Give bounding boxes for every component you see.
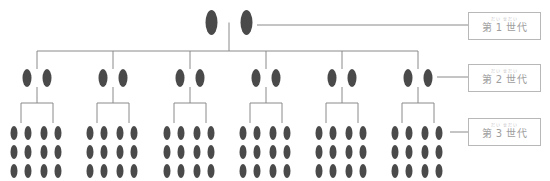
gen3-person-icon xyxy=(178,145,185,159)
gen3-person-icon xyxy=(330,126,337,140)
gen3-person-icon xyxy=(436,126,443,140)
gen3-person-icon xyxy=(87,164,94,178)
gen3-person-icon xyxy=(422,164,429,178)
gen3-person-icon xyxy=(25,145,32,159)
gen3-person-icon xyxy=(178,164,185,178)
gen3-person-icon xyxy=(131,145,138,159)
gen3-person-icon xyxy=(208,126,215,140)
gen3-person-icon xyxy=(208,145,215,159)
gen3-person-icon xyxy=(392,126,399,140)
gen3-person-icon xyxy=(101,164,108,178)
connector-lines xyxy=(21,23,468,133)
gen3-person-icon xyxy=(346,164,353,178)
gen1-person-icon xyxy=(206,10,218,35)
gen3-person-icon xyxy=(392,164,399,178)
gen3-person-icon xyxy=(270,164,277,178)
gen3-person-icon xyxy=(270,145,277,159)
gen3-person-icon xyxy=(316,126,323,140)
gen3-person-icon xyxy=(55,164,62,178)
gen3-person-icon xyxy=(164,126,171,140)
gen2-person-icon xyxy=(196,69,205,87)
gen3-person-icon xyxy=(346,145,353,159)
generation-3-text: 第 3 世代 xyxy=(482,128,528,140)
gen3-person-icon xyxy=(117,164,124,178)
gen3-person-icon xyxy=(117,145,124,159)
gen2-person-icon xyxy=(252,69,261,87)
generation-1-label: だい せだい 第 1 世代 xyxy=(468,12,541,40)
gen3-person-icon xyxy=(25,126,32,140)
gen3-person-icon xyxy=(178,126,185,140)
gen3-person-icon xyxy=(406,126,413,140)
generation-1-text: 第 1 世代 xyxy=(482,22,528,34)
gen3-person-icon xyxy=(360,164,367,178)
gen3-person-icon xyxy=(87,126,94,140)
gen2-person-icon xyxy=(23,69,32,87)
gen3-person-icon xyxy=(41,126,48,140)
gen3-person-icon xyxy=(101,126,108,140)
gen3-person-icon xyxy=(254,145,261,159)
gen3-person-icon xyxy=(11,126,18,140)
gen3-person-icon xyxy=(240,164,247,178)
gen3-person-icon xyxy=(392,145,399,159)
gen3-person-icon xyxy=(41,164,48,178)
gen3-person-icon xyxy=(284,145,291,159)
gen3-person-icon xyxy=(270,126,277,140)
gen3-person-icon xyxy=(25,164,32,178)
gen3-person-icon xyxy=(316,145,323,159)
gen3-person-icon xyxy=(101,145,108,159)
gen3-person-icon xyxy=(117,126,124,140)
gen3-person-icon xyxy=(164,145,171,159)
gen3-person-icon xyxy=(194,164,201,178)
gen3-person-icon xyxy=(360,145,367,159)
gen3-person-icon xyxy=(316,164,323,178)
gen3-person-icon xyxy=(11,164,18,178)
gen3-person-icon xyxy=(194,126,201,140)
gen2-person-icon xyxy=(328,69,337,87)
gen3-person-icon xyxy=(11,145,18,159)
gen3-person-icon xyxy=(284,164,291,178)
gen3-person-icon xyxy=(406,164,413,178)
gen3-person-icon xyxy=(406,145,413,159)
generation-2-text: 第 2 世代 xyxy=(482,74,528,86)
gen3-person-icon xyxy=(436,164,443,178)
gen3-person-icon xyxy=(360,126,367,140)
gen3-person-icon xyxy=(422,145,429,159)
gen1-person-icon xyxy=(241,10,253,35)
generation-2-label: だい せだい 第 2 世代 xyxy=(468,64,541,92)
gen3-person-icon xyxy=(254,164,261,178)
gen3-person-icon xyxy=(436,145,443,159)
gen3-person-icon xyxy=(346,126,353,140)
gen3-person-icon xyxy=(208,164,215,178)
individuals xyxy=(11,10,443,178)
gen2-person-icon xyxy=(176,69,185,87)
gen3-person-icon xyxy=(164,164,171,178)
gen3-person-icon xyxy=(41,145,48,159)
gen3-person-icon xyxy=(131,164,138,178)
generation-3-label: だい せだい 第 3 世代 xyxy=(468,118,541,146)
gen2-person-icon xyxy=(99,69,108,87)
gen3-person-icon xyxy=(55,145,62,159)
gen2-person-icon xyxy=(119,69,128,87)
gen3-person-icon xyxy=(330,145,337,159)
gen2-person-icon xyxy=(404,69,413,87)
gen2-person-icon xyxy=(424,69,433,87)
gen3-person-icon xyxy=(240,145,247,159)
gen3-person-icon xyxy=(330,164,337,178)
gen3-person-icon xyxy=(55,126,62,140)
gen2-person-icon xyxy=(43,69,52,87)
gen3-person-icon xyxy=(131,126,138,140)
gen3-person-icon xyxy=(284,126,291,140)
gen3-person-icon xyxy=(254,126,261,140)
gen3-person-icon xyxy=(422,126,429,140)
gen2-person-icon xyxy=(272,69,281,87)
gen2-person-icon xyxy=(348,69,357,87)
gen3-person-icon xyxy=(194,145,201,159)
gen3-person-icon xyxy=(87,145,94,159)
gen3-person-icon xyxy=(240,126,247,140)
